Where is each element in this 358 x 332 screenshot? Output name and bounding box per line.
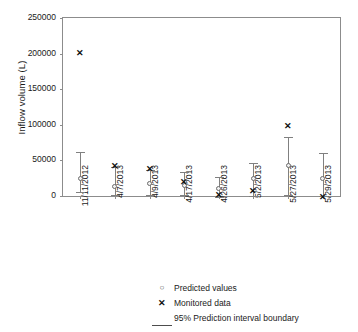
legend-label: Predicted values <box>174 283 237 293</box>
interval-upper-cap <box>76 152 85 153</box>
monitored-data-marker: ✕ <box>180 178 189 187</box>
x-tick-label: 4/9/2013 <box>150 165 160 241</box>
y-tick-mark <box>60 125 63 126</box>
chart-legend: ○ Predicted values ✕ Monitored data 95% … <box>150 280 299 325</box>
interval-upper-cap <box>215 177 224 178</box>
interval-upper-cap <box>249 163 258 164</box>
prediction-interval-bar <box>80 152 81 193</box>
legend-item-prediction-interval: 95% Prediction interval boundary <box>150 310 299 325</box>
circle-marker-icon: ○ <box>150 283 174 292</box>
prediction-interval-bar <box>323 153 324 196</box>
legend-item-monitored-data: ✕ Monitored data <box>150 295 299 310</box>
y-tick-label: 250000 <box>6 12 56 22</box>
y-tick-mark <box>60 196 63 197</box>
interval-upper-cap <box>319 153 328 154</box>
x-tick-label: 4/7/2013 <box>115 165 125 241</box>
x-marker-icon: ✕ <box>150 298 174 308</box>
monitored-data-marker: ✕ <box>110 162 119 171</box>
chart-figure: Inflow volume (L) 0500001000001500002000… <box>0 0 358 332</box>
interval-lower-cap <box>76 192 85 193</box>
legend-label: 95% Prediction interval boundary <box>174 313 299 323</box>
y-tick-mark <box>60 160 63 161</box>
y-tick-label: 50000 <box>6 154 56 164</box>
legend-item-predicted-values: ○ Predicted values <box>150 280 299 295</box>
interval-upper-cap <box>284 137 293 138</box>
y-tick-mark <box>60 54 63 55</box>
prediction-interval-bar <box>115 167 116 195</box>
monitored-data-marker: ✕ <box>318 193 327 202</box>
interval-lower-cap <box>180 195 189 196</box>
interval-lower-cap <box>146 195 155 196</box>
monitored-data-marker: ✕ <box>284 122 293 131</box>
monitored-data-marker: ✕ <box>249 187 258 196</box>
y-tick-mark <box>60 18 63 19</box>
monitored-data-marker: ✕ <box>145 165 154 174</box>
y-tick-label: 0 <box>6 190 56 200</box>
predicted-value-marker <box>78 176 83 181</box>
legend-label: Monitored data <box>174 298 231 308</box>
y-tick-label: 150000 <box>6 83 56 93</box>
plot-inner: 05000010000015000020000025000011/11/2012… <box>63 18 340 196</box>
plot-area: 05000010000015000020000025000011/11/2012… <box>62 17 341 197</box>
predicted-value-marker <box>286 163 291 168</box>
y-tick-mark <box>60 89 63 90</box>
interval-lower-cap <box>284 195 293 196</box>
monitored-data-marker: ✕ <box>76 49 85 58</box>
y-tick-label: 200000 <box>6 48 56 58</box>
interval-upper-cap <box>180 172 189 173</box>
predicted-value-marker <box>320 176 325 181</box>
monitored-data-marker: ✕ <box>214 191 223 200</box>
interval-lower-cap <box>111 195 120 196</box>
y-tick-label: 100000 <box>6 119 56 129</box>
x-tick-label: 5/27/2013 <box>288 165 298 241</box>
